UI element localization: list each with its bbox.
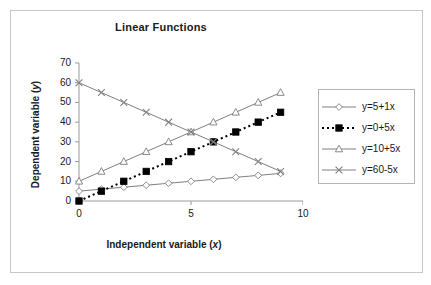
legend-key-canvas bbox=[319, 142, 359, 156]
legend-item-label: y=60-5x bbox=[359, 164, 398, 175]
y-axis-title: Dependent variable (y) bbox=[30, 55, 41, 215]
x-axis-title: Independent variable (x) bbox=[29, 239, 299, 250]
y-axis-tick-label: 70 bbox=[45, 58, 71, 68]
data-series-2 bbox=[76, 109, 284, 204]
legend-key-canvas bbox=[319, 121, 359, 135]
data-marker-square bbox=[255, 119, 261, 125]
legend-key-canvas bbox=[319, 100, 359, 114]
y-axis-tick-label: 30 bbox=[45, 137, 71, 147]
y-axis-tick-label: 50 bbox=[45, 97, 71, 107]
y-axis-tick-label: 20 bbox=[45, 157, 71, 167]
chart-legend: y=5+1xy=0+5xy=10+5xy=60-5x bbox=[318, 89, 415, 184]
data-marker-square bbox=[277, 109, 283, 115]
y-axis-tick-label: 60 bbox=[45, 78, 71, 88]
y-axis-tick-label: 40 bbox=[45, 117, 71, 127]
data-marker-square bbox=[143, 168, 149, 174]
x-axis-title-text: Independent variable bbox=[106, 239, 206, 250]
legend-key-canvas bbox=[319, 163, 359, 177]
data-marker-diamond bbox=[210, 176, 217, 183]
data-marker-diamond bbox=[76, 188, 83, 195]
legend-item[interactable]: y=5+1x bbox=[319, 96, 416, 117]
legend-key-open-diamond-icon bbox=[319, 100, 359, 114]
data-marker-square bbox=[233, 129, 239, 135]
data-marker-triangle bbox=[255, 99, 262, 106]
data-marker-triangle bbox=[277, 89, 284, 96]
data-marker-diamond bbox=[255, 172, 262, 179]
y-axis-tick-label: 0 bbox=[45, 196, 71, 206]
data-marker-square bbox=[336, 124, 342, 130]
data-marker-triangle bbox=[210, 118, 217, 125]
data-series-1 bbox=[76, 170, 284, 195]
y-axis-title-paren: ( bbox=[30, 90, 41, 96]
legend-key-cross-x-icon bbox=[319, 163, 359, 177]
legend-item-label: y=5+1x bbox=[359, 101, 395, 112]
x-axis-title-paren-close: ) bbox=[218, 239, 221, 250]
series-line bbox=[79, 93, 281, 182]
data-marker-triangle bbox=[335, 145, 342, 152]
data-marker-triangle bbox=[120, 158, 127, 165]
y-axis-tick-label: 10 bbox=[45, 176, 71, 186]
series-line bbox=[79, 173, 281, 191]
legend-key-filled-square-icon bbox=[319, 121, 359, 135]
data-marker-square bbox=[98, 188, 104, 194]
data-marker-square bbox=[76, 198, 82, 204]
y-axis-variable-symbol: y bbox=[30, 84, 41, 90]
legend-item[interactable]: y=0+5x bbox=[319, 117, 416, 138]
chart-title: Linear Functions bbox=[11, 21, 311, 33]
y-axis-title-text: Dependent variable bbox=[30, 96, 41, 188]
data-marker-triangle bbox=[75, 177, 82, 184]
series-line bbox=[79, 112, 281, 201]
legend-key-open-triangle-icon bbox=[319, 142, 359, 156]
legend-item-label: y=0+5x bbox=[359, 122, 395, 133]
legend-item[interactable]: y=10+5x bbox=[319, 138, 416, 159]
y-axis-title-paren-close: ) bbox=[30, 81, 41, 84]
chart-figure: Linear Functions Dependent variable (y) … bbox=[10, 10, 423, 273]
data-marker-triangle bbox=[232, 108, 239, 115]
data-marker-diamond bbox=[188, 178, 195, 185]
data-series-4 bbox=[76, 79, 284, 175]
data-marker-diamond bbox=[232, 174, 239, 181]
series-line bbox=[79, 83, 281, 172]
plot-canvas bbox=[69, 53, 303, 211]
data-marker-diamond bbox=[336, 103, 343, 110]
data-marker-triangle bbox=[165, 138, 172, 145]
data-marker-triangle bbox=[98, 168, 105, 175]
data-marker-square bbox=[165, 158, 171, 164]
data-marker-square bbox=[188, 149, 194, 155]
data-marker-triangle bbox=[143, 148, 150, 155]
data-marker-diamond bbox=[143, 182, 150, 189]
plot-area bbox=[69, 53, 303, 211]
data-series-3 bbox=[75, 89, 284, 184]
data-marker-diamond bbox=[165, 180, 172, 187]
legend-item-label: y=10+5x bbox=[359, 143, 400, 154]
legend-item[interactable]: y=60-5x bbox=[319, 159, 416, 180]
data-marker-square bbox=[121, 178, 127, 184]
